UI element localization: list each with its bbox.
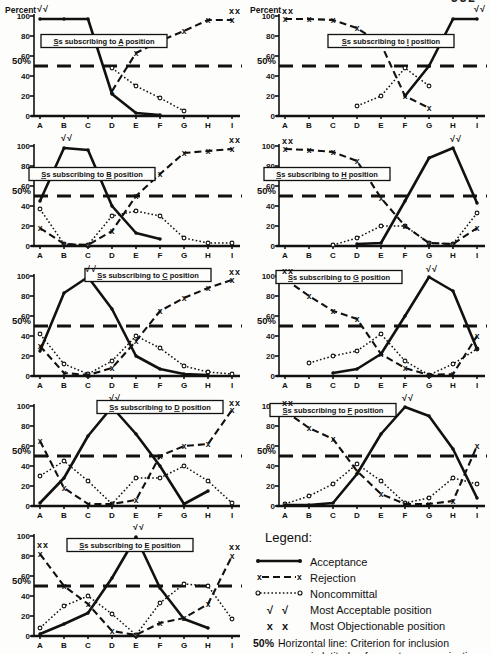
x-tick-label: I [476, 251, 478, 260]
noncommittal-point [331, 482, 335, 486]
x-tick-label: C [330, 251, 336, 260]
x-tick-label: I [231, 641, 233, 650]
x-tick-label: D [109, 641, 115, 650]
x-tick-label: E [133, 121, 139, 130]
chart-svg-D: 10080604020050%ABCDEFGHIxxxxxxxxxSs subs… [0, 394, 242, 522]
rejection-point: x [182, 26, 187, 36]
rejection-point: x [206, 283, 211, 293]
rejection-point: x [206, 599, 211, 609]
rejection-point: x [403, 499, 408, 509]
legend-item-most-objectionable: x x Most Objectionable position [253, 619, 491, 633]
x-tick-label: B [306, 381, 312, 390]
chart-H-position: 10080604020050%ABCDEFGHIxxxxxxxxxSs subs… [245, 134, 491, 264]
rejection-point: x [331, 147, 336, 157]
noncommittal-point [206, 584, 210, 588]
acceptance-point [355, 242, 358, 245]
most-objectionable-mark: xx [282, 398, 294, 408]
noncommittal-point [355, 236, 359, 240]
acceptance-point [158, 367, 161, 370]
y-tick-label: 20 [21, 612, 30, 621]
y-tick-label: 100 [17, 12, 31, 21]
legend-label-most-objectionable: Most Objectionable position [305, 620, 445, 632]
noncommittal-point [158, 214, 162, 218]
x-tick-label: G [181, 511, 187, 520]
x-tick-label: G [181, 121, 187, 130]
acceptance-point [134, 354, 137, 357]
rejection-point: x [38, 549, 43, 559]
acceptance-point [86, 611, 89, 614]
rejection-point: x [307, 145, 312, 155]
noncommittal-point [206, 241, 210, 245]
most-objectionable-mark: xx [282, 136, 294, 146]
noncommittal-point [230, 617, 234, 621]
x-tick-label: A [282, 251, 288, 260]
y-tick-label: 40 [21, 202, 30, 211]
rejection-point: x [62, 483, 67, 493]
fifty-percent-label: 50% [257, 445, 277, 456]
most-acceptable-mark: √√ [109, 394, 121, 403]
rejection-point: x [110, 626, 115, 636]
rejection-point: x [427, 103, 432, 113]
chart-svg-F: 10080604020050%ABCDEFGHIxxxxxxxxxSs subs… [245, 394, 487, 522]
noncommittal-point [331, 243, 335, 247]
legend-label-fifty-percent: Horizontal line: Criterion for inclusion [278, 637, 449, 649]
fifty-percent-label: 50% [12, 445, 32, 456]
y-tick-label: 80 [266, 292, 275, 301]
acceptance-point [110, 307, 113, 310]
y-tick-label: 20 [21, 92, 30, 101]
chart-title: Ss subscribing to D position [109, 403, 211, 412]
rejection-point: x [403, 363, 408, 373]
chart-svg-E: 10080604020050%ABCDEFGHIxxxxxxxxxSs subs… [0, 524, 242, 652]
noncommittal-point [230, 501, 234, 505]
acceptance-point [331, 371, 334, 374]
rejection-point: x [331, 434, 336, 444]
x-tick-label: I [231, 381, 233, 390]
chart-title: Ss subscribing to H position [276, 170, 378, 179]
rejection-point: x [62, 368, 67, 378]
x-tick-label: G [181, 251, 187, 260]
y-tick-label: 0 [271, 112, 276, 121]
noncommittal-point [230, 372, 234, 376]
noncommittal-point [38, 332, 42, 336]
x-tick-label: I [476, 511, 478, 520]
rejection-point: x [451, 496, 456, 506]
acceptance-point [158, 586, 161, 589]
acceptance-sample-svg [253, 556, 305, 566]
x-tick-label: D [354, 381, 360, 390]
x-tick-label: D [354, 251, 360, 260]
acceptance-point [134, 432, 137, 435]
acceptance-point [451, 447, 454, 450]
x-tick-label: C [330, 511, 336, 520]
acceptance-point [379, 352, 382, 355]
noncommittal-point [379, 94, 383, 98]
noncommittal-line [40, 209, 232, 245]
x-tick-label: G [426, 121, 432, 130]
y-tick-label: 100 [17, 402, 31, 411]
noncommittal-point [134, 476, 138, 480]
y-tick-label: 20 [266, 482, 275, 491]
acceptance-point [158, 237, 161, 240]
x-tick-label: A [37, 641, 43, 650]
most-objectionable-mark: xx [282, 266, 294, 276]
x-tick-label: C [330, 381, 336, 390]
rejection-point: x [158, 618, 163, 628]
acceptance-point [38, 632, 41, 635]
svg-text:x: x [257, 572, 262, 582]
acceptance-point [62, 291, 65, 294]
x-tick-label: F [158, 381, 163, 390]
rejection-point: x [182, 148, 187, 158]
chart-E-position: 10080604020050%ABCDEFGHIxxxxxxxxxSs subs… [0, 524, 245, 654]
rejection-point: x [230, 551, 235, 561]
acceptance-point [475, 201, 478, 204]
rejection-point: x [206, 439, 211, 449]
acceptance-point [283, 503, 286, 506]
x-tick-label: A [282, 511, 288, 520]
rejection-point: x [134, 495, 139, 505]
x-tick-label: E [133, 251, 139, 260]
chart-B-position: 10080604020050%ABCDEFGHIxxxxxxxxxSs subs… [0, 134, 245, 264]
noncommittal-point [206, 479, 210, 483]
rejection-point: x [134, 48, 139, 58]
y-tick-label: 100 [262, 142, 276, 151]
x-tick-label: D [354, 121, 360, 130]
acceptance-point [307, 503, 310, 506]
